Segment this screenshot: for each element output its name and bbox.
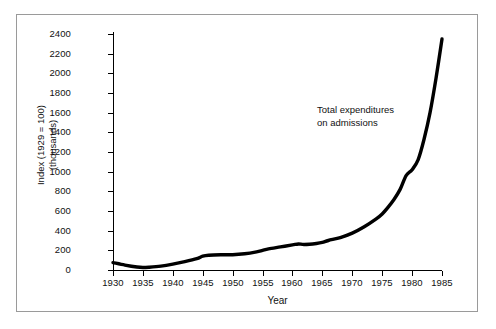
- figure-frame: 0200400600800100012001400160018002000220…: [16, 14, 478, 312]
- chart-plot-area: 0200400600800100012001400160018002000220…: [17, 15, 479, 313]
- data-series-svg: [17, 15, 479, 313]
- data-line-total-expenditures: [113, 39, 442, 268]
